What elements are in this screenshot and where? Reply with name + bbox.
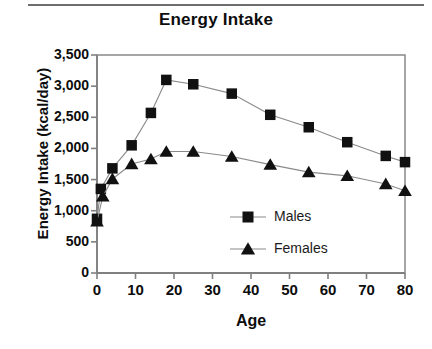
data-point-marker	[161, 75, 172, 86]
data-point-marker	[144, 153, 158, 165]
square-marker-icon	[243, 212, 254, 223]
data-point-marker	[125, 158, 139, 170]
data-point-marker	[107, 163, 118, 174]
legend-markers	[230, 212, 266, 255]
data-series-layer	[90, 75, 412, 227]
data-point-marker	[342, 137, 353, 148]
data-point-marker	[227, 88, 238, 99]
data-point-marker	[304, 122, 315, 133]
legend-label-males: Males	[274, 208, 311, 224]
triangle-marker-icon	[241, 242, 255, 254]
series-males	[92, 75, 411, 224]
data-point-marker	[126, 140, 136, 151]
data-point-marker	[398, 184, 412, 196]
data-point-marker	[400, 157, 411, 168]
data-point-marker	[265, 110, 276, 121]
data-point-marker	[188, 79, 199, 90]
axes-frame	[97, 55, 405, 273]
data-point-marker	[186, 145, 200, 157]
data-point-marker	[381, 151, 392, 162]
chart-figure: Energy Intake Energy Intake (kcal/day) A…	[0, 0, 432, 349]
legend-label-females: Females	[274, 240, 328, 256]
data-point-marker	[159, 145, 173, 157]
data-point-marker	[146, 108, 157, 119]
data-point-marker	[106, 173, 120, 185]
plot-area	[0, 0, 432, 349]
